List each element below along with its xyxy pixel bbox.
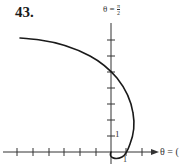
y-tick-label: 1 — [115, 129, 120, 139]
polar-curve — [20, 38, 134, 158]
polar-plot — [0, 0, 180, 164]
polar-axis-label: θ = ( — [160, 146, 179, 157]
x-tick-label: 1 — [123, 155, 127, 164]
arrow-icon — [151, 149, 159, 155]
vertical-axis-label-prefix: θ = — [103, 4, 115, 14]
pi-over-2-fraction: π 2 — [117, 3, 120, 16]
vertical-axis-label: θ = π 2 — [103, 3, 120, 16]
